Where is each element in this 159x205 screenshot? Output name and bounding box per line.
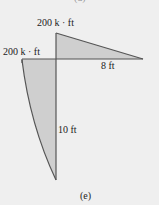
moment-diagram-graphic [0, 0, 159, 205]
figure-caption: (e) [80, 191, 91, 201]
moment-top-label: 200 k · ft [37, 18, 74, 28]
vertical-length-label: 10 ft [58, 125, 77, 135]
top-caption-partial: (d) [74, 0, 86, 3]
horizontal-length-label: 8 ft [101, 61, 115, 71]
moment-left-label: 200 k · ft [3, 47, 40, 57]
column-moment-region [22, 59, 56, 180]
